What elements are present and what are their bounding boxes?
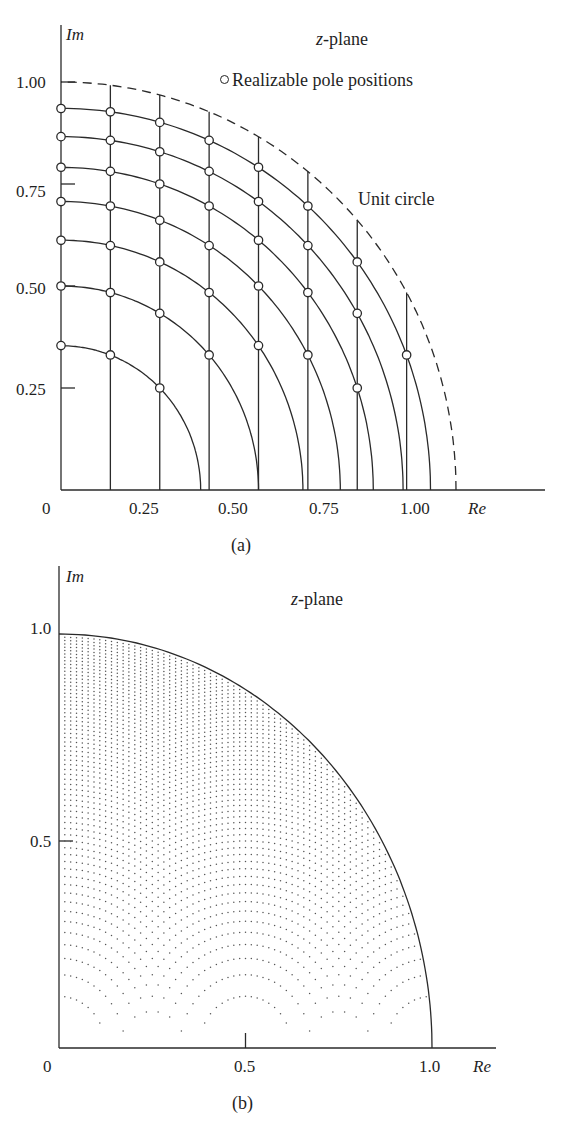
pole-marker [402, 351, 410, 359]
panel-b-ytick-0.5: 0.5 [30, 833, 51, 850]
panel-b-xtick-0: 0 [43, 1058, 52, 1075]
pole-marker [254, 282, 262, 290]
panel-b-y-axis-label: Im [66, 568, 84, 585]
panel-b-ytick-1.0: 1.0 [30, 620, 51, 637]
pole-marker [304, 351, 312, 359]
pole-marker [254, 197, 262, 205]
panel-a-x-axis-label: Re [468, 500, 486, 517]
unit-circle-annotation: Unit circle [358, 190, 434, 208]
pole-marker [156, 216, 164, 224]
pole-marker [304, 241, 312, 249]
pole-marker [156, 180, 164, 188]
panel-a-xtick-1.00: 1.00 [400, 500, 430, 517]
pole-marker [57, 341, 65, 349]
panel-a-ytick-0.75: 0.75 [16, 183, 46, 200]
panel-a-xtick-0.50: 0.50 [218, 500, 248, 517]
pole-marker [156, 384, 164, 392]
pole-marker [254, 341, 262, 349]
pole-marker [353, 384, 361, 392]
pole-marker [205, 351, 213, 359]
pole-marker [353, 258, 361, 266]
legend-label: Realizable pole positions [232, 70, 413, 90]
pole-marker [156, 118, 164, 126]
pole-marker [106, 167, 114, 175]
pole-marker [156, 258, 164, 266]
pole-marker [205, 136, 213, 144]
panel-a-xtick-0.75: 0.75 [309, 500, 339, 517]
pole-marker [106, 202, 114, 210]
pole-marker [106, 108, 114, 116]
pole-marker [304, 202, 312, 210]
pole-marker [106, 241, 114, 249]
pole-marker [106, 288, 114, 296]
panel-b-xtick-1.0: 1.0 [419, 1058, 440, 1075]
pole-marker [57, 197, 65, 205]
panel-a-xtick-0: 0 [42, 500, 51, 517]
pole-marker [57, 236, 65, 244]
panel-a-legend: Realizable pole positions [220, 71, 413, 89]
pole-marker [57, 282, 65, 290]
panel-b-title: z-plane [291, 590, 343, 608]
pole-marker [106, 136, 114, 144]
panel-a-caption: (a) [231, 536, 251, 554]
panel-a-y-axis-label: Im [66, 26, 84, 43]
pole-marker [205, 241, 213, 249]
pole-marker [57, 163, 65, 171]
panel-a-plot [57, 25, 545, 490]
figure-canvas [0, 0, 573, 1130]
pole-marker [57, 132, 65, 140]
panel-a-xtick-0.25: 0.25 [129, 500, 159, 517]
pole-marker [205, 202, 213, 210]
pole-marker-icon [220, 75, 229, 84]
panel-b-x-axis-label: Re [473, 1058, 491, 1075]
pole-marker [254, 236, 262, 244]
panel-a-title: z-plane [316, 30, 368, 48]
panel-b-xtick-0.5: 0.5 [234, 1058, 255, 1075]
pole-marker [254, 163, 262, 171]
panel-a-ytick-1.00: 1.00 [16, 74, 46, 91]
pole-marker [353, 309, 361, 317]
panel-a-ytick-0.25: 0.25 [16, 381, 46, 398]
pole-marker [156, 148, 164, 156]
pole-marker [304, 288, 312, 296]
panel-a-ytick-0.50: 0.50 [16, 280, 46, 297]
pole-marker [57, 104, 65, 112]
panel-b-caption: (b) [232, 1094, 253, 1112]
pole-marker [156, 309, 164, 317]
pole-marker [205, 288, 213, 296]
pole-marker [106, 351, 114, 359]
panel-b-plot [59, 566, 496, 1048]
pole-marker [205, 167, 213, 175]
